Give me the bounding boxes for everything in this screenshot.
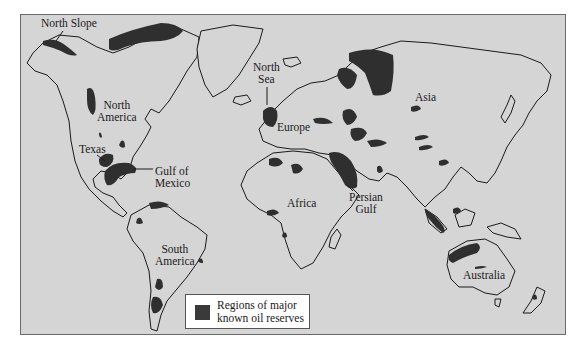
label-texas: Texas <box>79 143 106 155</box>
svalbard-outline <box>283 57 301 67</box>
label-north-sea: North Sea <box>253 61 280 85</box>
tasmania-outline <box>495 299 501 307</box>
new-zealand-outline <box>523 287 545 313</box>
oil-reserve-swatch <box>195 305 210 320</box>
label-europe: Europe <box>277 121 310 133</box>
label-north-slope: North Slope <box>41 17 97 29</box>
map-legend: Regions of major known oil reserves <box>185 294 310 329</box>
label-asia: Asia <box>415 91 436 103</box>
label-gulf-of-mexico: Gulf of Mexico <box>155 165 190 189</box>
world-oil-reserves-map: North Slope North America Texas Gulf of … <box>20 14 566 335</box>
label-australia: Australia <box>463 269 505 281</box>
iceland-outline <box>233 95 251 105</box>
label-africa: Africa <box>287 197 316 209</box>
new-guinea-outline <box>487 223 521 239</box>
label-north-america: North America <box>97 99 137 123</box>
label-persian-gulf: Persian Gulf <box>349 191 383 215</box>
legend-label: Regions of major known oil reserves <box>217 299 304 325</box>
world-map-graphic <box>21 15 566 335</box>
label-south-america: South America <box>155 243 195 267</box>
